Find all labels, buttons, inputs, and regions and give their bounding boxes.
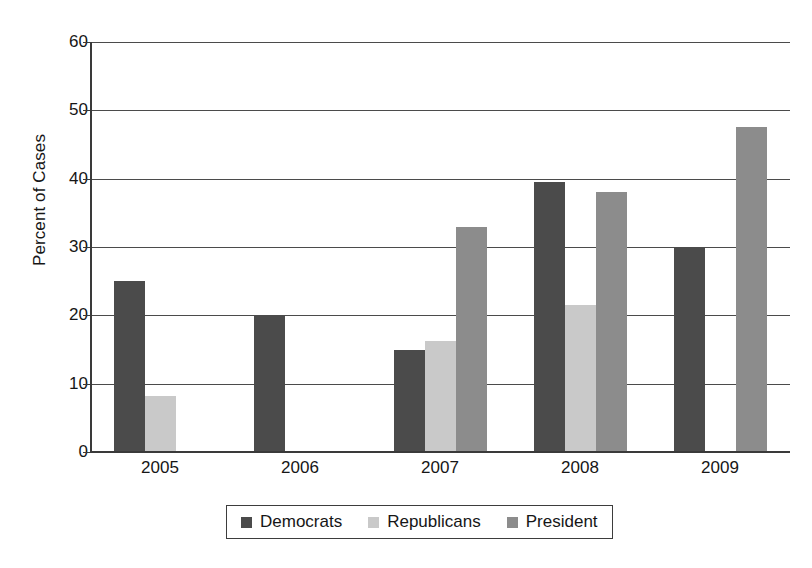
- bar-democrats-2008: [534, 182, 565, 452]
- y-tick-mark: [83, 247, 90, 248]
- legend-swatch-president-icon: [507, 517, 518, 528]
- y-tick-mark: [83, 110, 90, 111]
- x-tick-label-2009: 2009: [660, 458, 780, 478]
- bar-democrats-2007: [394, 350, 425, 453]
- bar-president-2008: [596, 192, 627, 452]
- y-tick-mark: [83, 179, 90, 180]
- bar-group: [90, 42, 230, 452]
- legend-label: President: [526, 512, 598, 532]
- y-tick-mark: [83, 42, 90, 43]
- y-tick-label: 60: [48, 32, 88, 52]
- bar-group: [230, 42, 370, 452]
- y-tick-label: 50: [48, 100, 88, 120]
- bar-democrats-2009: [674, 248, 705, 452]
- legend-item-republicans[interactable]: Republicans: [368, 512, 481, 532]
- legend-label: Democrats: [260, 512, 342, 532]
- bar-republicans-2005: [145, 396, 176, 452]
- y-tick-mark: [83, 315, 90, 316]
- legend-swatch-republicans-icon: [368, 517, 379, 528]
- x-tick-label-2007: 2007: [380, 458, 500, 478]
- y-tick-mark: [83, 384, 90, 385]
- bar-president-2009: [736, 127, 767, 452]
- bar-president-2007: [456, 227, 487, 453]
- bar-democrats-2005: [114, 281, 145, 452]
- x-tick-label-2008: 2008: [520, 458, 640, 478]
- bar-republicans-2007: [425, 341, 456, 452]
- y-axis-title: Percent of Cases: [30, 100, 50, 300]
- legend-item-democrats[interactable]: Democrats: [241, 512, 342, 532]
- x-tick-label-2006: 2006: [240, 458, 360, 478]
- legend-swatch-democrats-icon: [241, 517, 252, 528]
- y-tick-label: 30: [48, 237, 88, 257]
- bar-group: [510, 42, 650, 452]
- y-axis-line: [90, 42, 92, 452]
- bar-democrats-2006: [254, 315, 285, 452]
- y-tick-label: 20: [48, 305, 88, 325]
- legend-label: Republicans: [387, 512, 481, 532]
- plot-area: [90, 42, 790, 452]
- y-tick-label: 40: [48, 169, 88, 189]
- y-tick-mark: [83, 452, 90, 453]
- x-tick-label-2005: 2005: [100, 458, 220, 478]
- x-axis-line: [90, 451, 790, 453]
- bar-republicans-2008: [565, 305, 596, 452]
- chart-legend: DemocratsRepublicansPresident: [226, 505, 613, 539]
- y-tick-label: 0: [48, 442, 88, 462]
- bar-chart-figure: Percent of Cases 0102030405060 200520062…: [0, 0, 812, 568]
- bar-group: [650, 42, 790, 452]
- bar-group: [370, 42, 510, 452]
- legend-item-president[interactable]: President: [507, 512, 598, 532]
- y-tick-label: 10: [48, 374, 88, 394]
